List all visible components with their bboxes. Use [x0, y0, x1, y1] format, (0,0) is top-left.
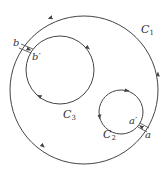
label-b-prime: b′ [32, 51, 41, 62]
label-c1: C1 [141, 23, 154, 37]
contour-diagram: C1 C3 C2 b b′ a a′ [0, 0, 165, 170]
diagram-canvas: C1 C3 C2 b b′ a a′ [0, 0, 165, 170]
arrow-c1-top-icon [50, 16, 58, 19]
arrow-c1-bottom-icon [36, 140, 43, 146]
label-c2: C2 [103, 128, 116, 142]
label-c3: C3 [63, 108, 76, 122]
label-a-prime: a′ [129, 115, 138, 126]
contour-c3 [26, 36, 94, 104]
label-b: b [13, 37, 19, 48]
label-a: a [145, 129, 151, 140]
